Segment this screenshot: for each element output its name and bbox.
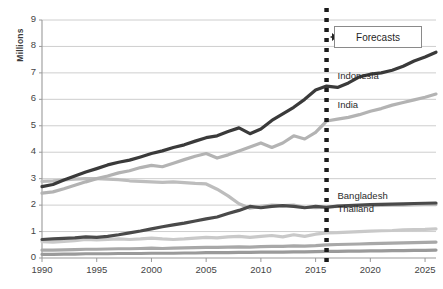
y-tick-label: 0 — [12, 251, 36, 262]
x-tick-label: 1990 — [22, 264, 62, 275]
y-tick-label: 2 — [12, 198, 36, 209]
y-tick-label: 1 — [12, 225, 36, 236]
y-tick-label: 4 — [12, 145, 36, 156]
series-label-indonesia: Indonesia — [338, 70, 379, 81]
series-lines — [42, 52, 436, 254]
x-tick-label: 2020 — [350, 264, 390, 275]
forecasts-annotation-box: Forecasts — [334, 26, 422, 48]
x-tick-label: 1995 — [77, 264, 117, 275]
x-tick-label: 2000 — [131, 264, 171, 275]
x-tick-label: 2025 — [405, 264, 443, 275]
y-tick-label: 3 — [12, 172, 36, 183]
y-tick-label: 8 — [12, 39, 36, 50]
x-tick-marks — [42, 258, 425, 262]
y-tick-label: 7 — [12, 66, 36, 77]
series-label-bangladesh: Bangladesh — [338, 190, 388, 201]
axis-lines — [39, 20, 436, 258]
forecasts-label: Forecasts — [356, 32, 400, 43]
series-label-thailand: Thailand — [338, 203, 374, 214]
series-label-india: India — [338, 99, 359, 110]
x-tick-label: 2005 — [186, 264, 226, 275]
y-tick-label: 6 — [12, 92, 36, 103]
x-tick-label: 2010 — [241, 264, 281, 275]
y-tick-label: 5 — [12, 119, 36, 130]
x-tick-label: 2015 — [296, 264, 336, 275]
line-chart: Millions 0123456789 19901995200020052010… — [0, 0, 443, 289]
y-tick-label: 9 — [12, 13, 36, 24]
